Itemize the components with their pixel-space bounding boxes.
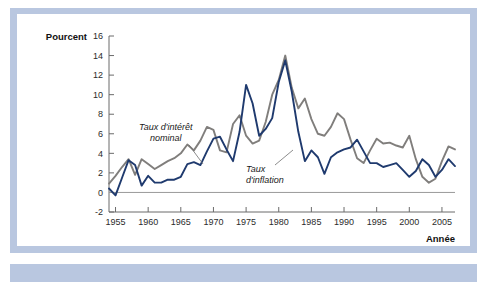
y-tick-label: 14: [93, 51, 103, 61]
x-tick-label: 2005: [432, 217, 452, 227]
line-chart: -20246810121416 195519601965197019751980…: [17, 14, 470, 246]
y-axis-title: Pourcent: [46, 31, 88, 42]
annotation-nominal: Taux d'intérêt nominal: [139, 122, 203, 164]
y-tick-label: 4: [98, 149, 103, 159]
x-axis-group: 1955196019651970197519801985199019952000…: [106, 207, 455, 227]
y-tick-label: 10: [93, 90, 103, 100]
figure-bottom-band: [10, 264, 477, 282]
y-tick-label: -2: [95, 207, 103, 217]
figure-root: -20246810121416 195519601965197019751980…: [0, 0, 487, 282]
annotation-inflation-leader: [275, 150, 293, 165]
x-tick-label: 1955: [106, 217, 126, 227]
chart-area: -20246810121416 195519601965197019751980…: [17, 14, 470, 246]
annotation-inflation-line2: d'inflation: [246, 175, 284, 185]
x-tick-label: 1995: [367, 217, 387, 227]
x-tick-label: 1960: [138, 217, 158, 227]
x-tick-label: 1975: [236, 217, 256, 227]
annotation-inflation-line1: Taux: [246, 164, 266, 174]
y-tick-label: 0: [98, 188, 103, 198]
x-tick-label: 1980: [269, 217, 289, 227]
x-tick-label: 1970: [203, 217, 223, 227]
y-tick-label: 8: [98, 109, 103, 119]
x-tick-label: 1965: [171, 217, 191, 227]
annotation-nominal-line2: nominal: [150, 133, 183, 143]
y-tick-label: 6: [98, 129, 103, 139]
y-tick-label: 16: [93, 31, 103, 41]
x-tick-label: 1990: [334, 217, 354, 227]
x-axis-title: Année: [426, 233, 455, 244]
x-tick-label: 2000: [399, 217, 419, 227]
x-tick-group: 1955196019651970197519801985199019952000…: [106, 207, 452, 227]
annotation-nominal-line1: Taux d'intérêt: [139, 122, 193, 132]
y-tick-label: 12: [93, 70, 103, 80]
y-tick-label: 2: [98, 168, 103, 178]
x-tick-label: 1985: [301, 217, 321, 227]
series-nominal-rate: [109, 56, 455, 184]
annotation-inflation: Taux d'inflation: [246, 150, 293, 185]
